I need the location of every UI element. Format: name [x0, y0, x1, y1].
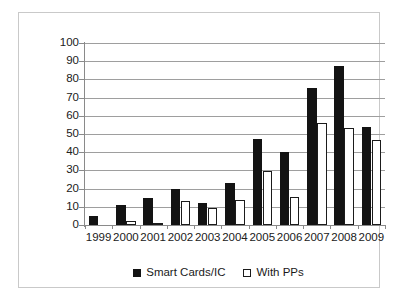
legend-label-with-pps: With PPs: [256, 266, 303, 279]
chart-frame: 0102030405060708090100 19992000200120022…: [18, 12, 380, 288]
x-tick-2006: [303, 225, 304, 229]
chart-legend: Smart Cards/ICWith PPs: [19, 266, 399, 279]
bar-group-2007: [303, 43, 330, 225]
x-tick-2004: [249, 225, 250, 229]
bar-group-2005: [249, 43, 276, 225]
plot-area: [85, 43, 385, 225]
x-tick-label-2007: 2007: [303, 231, 330, 243]
y-tick-label-0: 0: [33, 219, 79, 231]
y-tick-60: [79, 116, 84, 117]
legend-label-smart-cards-ic: Smart Cards/IC: [146, 266, 225, 279]
y-tick-label-80: 80: [33, 73, 79, 85]
bar-group-1999: [85, 43, 112, 225]
x-axis-tick-labels: 1999200020012002200320042005200620072008…: [85, 231, 385, 247]
bar-group-2003: [194, 43, 221, 225]
bar-2009-smart-cards-ic: [362, 127, 372, 225]
bar-group-2009: [358, 43, 385, 225]
x-tick-1999: [112, 225, 113, 229]
legend-entry-with-pps[interactable]: With PPs: [243, 266, 303, 279]
y-tick-80: [79, 79, 84, 80]
x-tick-label-2003: 2003: [194, 231, 221, 243]
y-tick-0: [79, 225, 84, 226]
y-tick-50: [79, 134, 84, 135]
bar-group-2004: [221, 43, 248, 225]
x-tick-label-2002: 2002: [167, 231, 194, 243]
x-tick-2000: [140, 225, 141, 229]
bar-2000-with-pps: [126, 221, 136, 225]
bar-2003-with-pps: [208, 208, 218, 225]
y-tick-label-10: 10: [33, 201, 79, 213]
y-tick-20: [79, 189, 84, 190]
bar-2007-with-pps: [317, 123, 327, 225]
y-tick-30: [79, 170, 84, 171]
bar-2004-smart-cards-ic: [225, 183, 235, 225]
bar-2004-with-pps: [235, 200, 245, 225]
x-tick-2005: [276, 225, 277, 229]
x-tick-label-2001: 2001: [140, 231, 167, 243]
x-tick-label-2008: 2008: [330, 231, 357, 243]
y-tick-label-70: 70: [33, 92, 79, 104]
bar-group-2002: [167, 43, 194, 225]
x-tick-label-2000: 2000: [112, 231, 139, 243]
y-tick-label-20: 20: [33, 183, 79, 195]
bar-2002-smart-cards-ic: [171, 189, 181, 225]
bar-2006-with-pps: [290, 197, 300, 225]
y-tick-label-100: 100: [33, 37, 79, 49]
bar-group-2001: [140, 43, 167, 225]
y-axis-tick-labels: 0102030405060708090100: [29, 13, 79, 300]
x-tick-label-2006: 2006: [276, 231, 303, 243]
y-tick-90: [79, 61, 84, 62]
bar-group-2006: [276, 43, 303, 225]
x-tick-2001: [167, 225, 168, 229]
bar-2001-smart-cards-ic: [143, 198, 153, 225]
bar-2007-smart-cards-ic: [307, 88, 317, 225]
x-tick-label-2004: 2004: [221, 231, 248, 243]
outlined-square-icon: [243, 269, 251, 277]
y-tick-label-30: 30: [33, 164, 79, 176]
bar-group-2000: [112, 43, 139, 225]
x-tick-label-1999: 1999: [85, 231, 112, 243]
bar-2008-smart-cards-ic: [334, 66, 344, 225]
bar-2000-smart-cards-ic: [116, 205, 126, 225]
x-tick-2002: [194, 225, 195, 229]
y-tick-40: [79, 152, 84, 153]
x-tick-label-2009: 2009: [358, 231, 385, 243]
bar-2005-with-pps: [263, 171, 273, 225]
bar-2006-smart-cards-ic: [280, 152, 290, 225]
gridline-0: [85, 225, 385, 226]
bar-group-2008: [330, 43, 357, 225]
bar-2008-with-pps: [344, 128, 354, 225]
x-tick-2008: [358, 225, 359, 229]
bar-2001-with-pps: [153, 223, 163, 225]
y-tick-70: [79, 98, 84, 99]
y-tick-100: [79, 43, 84, 44]
y-tick-label-40: 40: [33, 146, 79, 158]
y-tick-label-50: 50: [33, 128, 79, 140]
chart-figure: 0102030405060708090100 19992000200120022…: [0, 0, 399, 300]
bar-2002-with-pps: [181, 201, 191, 225]
y-tick-label-90: 90: [33, 55, 79, 67]
x-tick-origin: [85, 225, 86, 229]
bar-2009-with-pps: [372, 140, 382, 225]
x-tick-label-2005: 2005: [249, 231, 276, 243]
bar-1999-smart-cards-ic: [89, 216, 99, 225]
bar-2005-smart-cards-ic: [253, 139, 263, 225]
bar-2003-smart-cards-ic: [198, 203, 208, 225]
x-tick-2003: [221, 225, 222, 229]
filled-square-icon: [133, 269, 141, 277]
x-tick-2007: [330, 225, 331, 229]
y-tick-label-60: 60: [33, 110, 79, 122]
x-tick-2009: [385, 225, 386, 229]
legend-entry-smart-cards-ic[interactable]: Smart Cards/IC: [133, 266, 225, 279]
y-tick-10: [79, 207, 84, 208]
